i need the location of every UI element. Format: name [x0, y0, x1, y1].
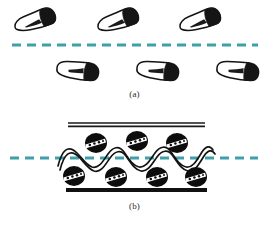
panel-a-caption: (a): [0, 89, 269, 99]
banded-particle: [185, 167, 207, 187]
panel-b-upper-particles: [85, 131, 188, 153]
panel-a-upper-particle-row: [12, 6, 222, 32]
flake-particle: [177, 6, 222, 32]
flake-particle: [136, 59, 180, 82]
figure-canvas: [0, 0, 269, 225]
panel-b-bottom-wall: [66, 188, 207, 192]
flake-particle: [12, 6, 57, 32]
banded-particle: [146, 167, 168, 187]
banded-particle: [63, 166, 85, 186]
panel-b-caption: (b): [0, 201, 269, 211]
banded-particle: [105, 167, 127, 187]
panel-a-lower-particle-row: [56, 59, 260, 82]
flake-particle: [95, 6, 140, 32]
banded-particle: [85, 133, 107, 153]
flake-particle: [56, 59, 100, 82]
panel-b-lower-particles: [63, 166, 207, 187]
flake-particle: [216, 59, 260, 82]
panel-b-top-wall: [68, 123, 205, 126]
panel-b: [10, 123, 258, 192]
banded-particle: [126, 131, 148, 151]
panel-a: [12, 6, 260, 82]
